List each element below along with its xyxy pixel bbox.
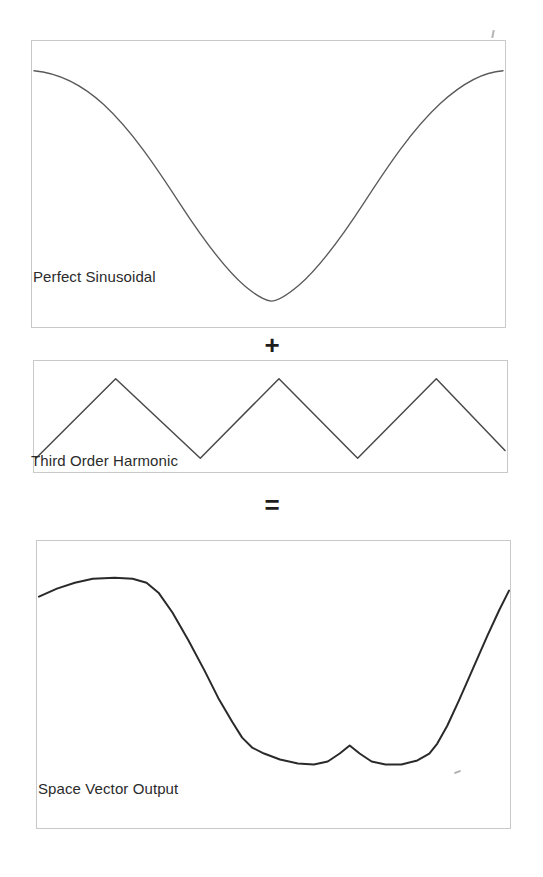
triangular-wave-path <box>36 379 505 459</box>
space-vector-wave-path <box>39 578 509 765</box>
caption-perfect-sinusoidal: Perfect Sinusoidal <box>33 268 156 285</box>
figure-root: Perfect Sinusoidal + Third Order Harmoni… <box>0 0 543 877</box>
caption-space-vector-output: Space Vector Output <box>38 780 178 797</box>
sine-wave-path <box>34 71 503 301</box>
operator-plus: + <box>250 332 294 358</box>
caption-third-order-harmonic: Third Order Harmonic <box>31 452 178 469</box>
operator-equals: = <box>250 492 294 518</box>
scan-artifact-tick-mark <box>491 30 494 38</box>
